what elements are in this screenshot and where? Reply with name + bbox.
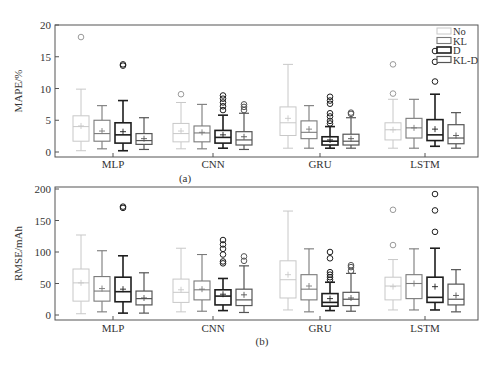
box-kl-mlp [94, 251, 110, 312]
box-kl-gru [301, 249, 317, 312]
outlier-marker [78, 34, 84, 40]
outlier-marker [178, 91, 184, 97]
box-kl-d-lstm [448, 113, 464, 149]
box-no-gru [280, 64, 296, 148]
x-tick-label-cnn: CNN [201, 158, 224, 170]
outlier-marker [432, 79, 438, 85]
y-axis-label: MAPE/% [12, 70, 24, 113]
box-d-mlp [115, 62, 131, 151]
y-tick-label: 150 [35, 215, 52, 227]
iqr-box [427, 277, 443, 302]
box-d-cnn [215, 237, 231, 310]
y-tick-label: 50 [40, 278, 52, 290]
box-no-mlp [73, 34, 89, 150]
legend-swatch-kl-d [437, 57, 451, 63]
legend-label-kl-d: KL-D [453, 55, 478, 66]
x-tick-label-mlp: MLP [102, 158, 125, 170]
outlier-marker [390, 62, 396, 68]
y-tick-label: 10 [40, 83, 52, 95]
box-kl-gru [301, 106, 317, 149]
y-tick-label: 20 [40, 19, 52, 31]
outlier-marker [432, 208, 438, 214]
box-d-mlp [115, 204, 131, 313]
box-kl-d-lstm [448, 270, 464, 312]
legend: NoKLDKL-D [437, 26, 478, 66]
box-kl-d-cnn [236, 102, 252, 150]
box-kl-lstm [406, 99, 422, 148]
legend-swatch-d [437, 47, 451, 53]
outlier-marker [327, 94, 333, 100]
outlier-marker [220, 252, 226, 258]
panel-label: (b) [256, 335, 269, 348]
outlier-marker [327, 255, 333, 261]
box-no-cnn [173, 91, 189, 148]
panel-b-rmse: 050100150200RMSE/mAhMLPCNNGRULSTM(b) [12, 183, 478, 348]
x-tick-label-lstm: LSTM [410, 158, 440, 170]
box-no-gru [280, 211, 296, 310]
panel-a-mape: 05101520MAPE/%MLPCNNGRULSTM(a)NoKLDKL-D [12, 19, 478, 185]
legend-swatch-kl [437, 38, 451, 44]
outlier-marker [432, 229, 438, 235]
box-no-cnn [173, 248, 189, 312]
y-tick-label: 15 [40, 51, 52, 63]
box-kl-cnn [194, 255, 210, 312]
outlier-marker [327, 249, 333, 255]
panel-label: (a) [179, 172, 192, 185]
x-tick-label-gru: GRU [308, 158, 331, 170]
box-kl-d-gru [343, 110, 359, 148]
outlier-marker [390, 242, 396, 248]
y-tick-label: 0 [46, 309, 52, 321]
box-no-lstm [385, 207, 401, 310]
y-axis-label: RMSE/mAh [12, 225, 24, 281]
legend-swatch-no [437, 28, 451, 34]
box-kl-d-mlp [136, 118, 152, 150]
x-tick-label-lstm: LSTM [410, 322, 440, 334]
x-tick-label-gru: GRU [308, 322, 331, 334]
x-tick-label-mlp: MLP [102, 322, 125, 334]
box-kl-d-mlp [136, 273, 152, 313]
y-tick-label: 5 [46, 114, 52, 126]
box-no-mlp [73, 235, 89, 314]
x-tick-label-cnn: CNN [201, 322, 224, 334]
boxplot-figure: 05101520MAPE/%MLPCNNGRULSTM(a)NoKLDKL-D … [0, 0, 500, 367]
outlier-marker [432, 191, 438, 197]
box-d-lstm [427, 191, 443, 310]
box-no-lstm [385, 62, 401, 149]
box-d-gru [322, 249, 338, 310]
box-kl-cnn [194, 104, 210, 148]
y-tick-label: 200 [35, 183, 52, 195]
box-kl-d-gru [343, 262, 359, 311]
y-tick-label: 100 [35, 246, 52, 258]
outlier-marker [390, 207, 396, 213]
box-kl-d-cnn [236, 254, 252, 313]
box-d-cnn [215, 93, 231, 149]
iqr-box [406, 275, 422, 299]
box-kl-lstm [406, 249, 422, 310]
box-d-gru [322, 94, 338, 148]
outlier-marker [390, 91, 396, 97]
y-tick-label: 0 [46, 146, 52, 158]
box-kl-mlp [94, 106, 110, 149]
